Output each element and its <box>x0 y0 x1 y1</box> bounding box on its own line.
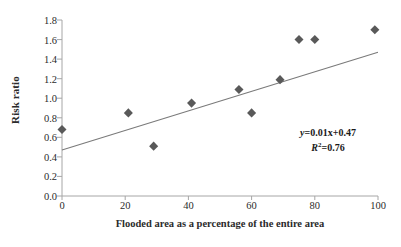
y-axis-ticks <box>57 20 62 196</box>
data-point <box>276 75 285 84</box>
r-squared-symbol: R <box>311 142 318 153</box>
regression-annotation: y=0.01x+0.47 R2=0.76 <box>276 126 380 154</box>
data-point <box>310 35 319 44</box>
data-point <box>247 108 256 117</box>
scatter-chart: Risk ratio 0.0 0.2 0.4 0.6 0.8 1.0 1.2 1… <box>0 0 401 247</box>
data-point <box>234 85 243 94</box>
plot-area <box>0 0 401 247</box>
x-axis-ticks <box>62 196 378 200</box>
data-point <box>124 108 133 117</box>
data-point <box>294 35 303 44</box>
r-squared-value: R2=0.76 <box>276 139 380 154</box>
data-point <box>370 25 379 34</box>
data-point <box>187 99 196 108</box>
data-point <box>149 142 158 151</box>
r-squared-number: =0.76 <box>321 142 344 153</box>
data-point <box>57 125 66 134</box>
regression-equation: y=0.01x+0.47 <box>276 126 380 139</box>
equation-expression: =0.01x+0.47 <box>305 127 356 138</box>
x-axis-title: Flooded area as a percentage of the enti… <box>62 218 378 229</box>
